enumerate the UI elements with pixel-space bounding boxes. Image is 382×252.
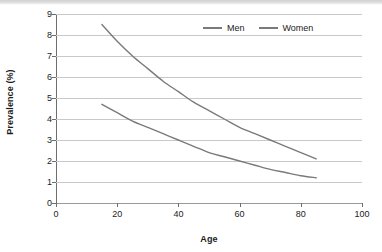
x-tick-80 xyxy=(301,203,302,207)
x-tick-label-60: 60 xyxy=(225,210,255,219)
y-tick-label-5: 5 xyxy=(32,94,52,103)
x-tick-label-80: 80 xyxy=(286,210,316,219)
y-axis-title: Prevalence (%) xyxy=(5,69,15,134)
x-tick-40 xyxy=(178,203,179,207)
x-axis-title: Age xyxy=(200,234,217,244)
x-tick-label-20: 20 xyxy=(102,210,132,219)
y-tick-label-7: 7 xyxy=(32,52,52,61)
chart-legend: Men Women xyxy=(203,21,313,35)
series-lines xyxy=(56,14,362,203)
series-line-women xyxy=(102,104,316,178)
y-tick-label-2: 2 xyxy=(32,157,52,166)
plot-area xyxy=(56,14,362,203)
y-axis-title-container: Prevalence (%) xyxy=(2,0,18,203)
line-chart: Prevalence (%) 0123456789 020406080100 A… xyxy=(0,0,382,252)
legend-swatch-women xyxy=(259,27,278,29)
y-tick-label-8: 8 xyxy=(32,31,52,40)
x-tick-label-100: 100 xyxy=(347,210,377,219)
y-tick-label-0: 0 xyxy=(32,199,52,208)
x-tick-20 xyxy=(117,203,118,207)
y-tick-label-3: 3 xyxy=(32,136,52,145)
legend-label-women: Women xyxy=(283,24,314,33)
x-tick-label-0: 0 xyxy=(41,210,71,219)
legend-item-women[interactable]: Women xyxy=(259,24,314,33)
y-tick-label-4: 4 xyxy=(32,115,52,124)
series-line-men xyxy=(102,25,316,159)
x-tick-100 xyxy=(362,203,363,207)
x-tick-0 xyxy=(56,203,57,207)
y-tick-label-6: 6 xyxy=(32,73,52,82)
y-tick-label-1: 1 xyxy=(32,178,52,187)
x-axis-title-container: Age xyxy=(56,228,362,246)
legend-label-men: Men xyxy=(227,24,245,33)
legend-swatch-men xyxy=(203,27,222,29)
x-axis: 020406080100 xyxy=(56,203,362,225)
x-tick-label-40: 40 xyxy=(163,210,193,219)
y-tick-label-9: 9 xyxy=(32,10,52,19)
x-tick-60 xyxy=(240,203,241,207)
legend-item-men[interactable]: Men xyxy=(203,24,245,33)
